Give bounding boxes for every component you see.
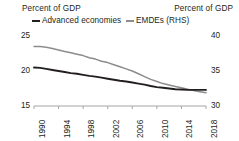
chart-figure: Percent of GDP Percent of GDP Advanced e… (0, 0, 239, 141)
right-axis-tick-label: 35 (211, 66, 227, 75)
x-axis-tick-label: 2014 (185, 120, 194, 138)
data-series-group (34, 47, 206, 93)
left-axis-tick-label: 15 (14, 101, 30, 110)
right-axis-tick-label: 40 (211, 31, 227, 40)
series-line-emdes (34, 47, 206, 93)
series-line-advanced-economies (34, 68, 206, 90)
x-axis-tick-label: 1994 (63, 120, 72, 138)
x-axis-tick-label: 2006 (136, 120, 145, 138)
x-axis-tick-label: 2002 (112, 120, 121, 138)
right-axis-tick-label: 30 (211, 101, 227, 110)
x-axis-tick-label: 1998 (87, 120, 96, 138)
left-axis-tick-label: 25 (14, 31, 30, 40)
x-axis-tick-label: 2010 (161, 120, 170, 138)
left-axis-tick-label: 20 (14, 66, 30, 75)
x-axis-tick-label: 2018 (210, 120, 219, 138)
x-axis-tick-label: 1990 (38, 120, 47, 138)
